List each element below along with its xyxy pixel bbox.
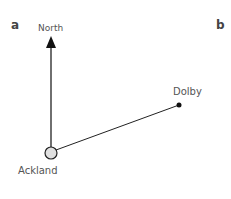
dolby-label: Dolby [173,86,202,97]
north-arrow-icon [46,36,56,147]
dolby-point-icon [177,103,182,108]
bearing-diagram: a b North Dolby Ackland [0,0,231,199]
north-label: North [38,23,63,33]
ackland-label: Ackland [18,165,58,176]
ackland-point-icon [45,147,57,159]
bearing-line [56,105,179,150]
panel-label-a: a [11,18,19,32]
panel-label-b: b [216,18,225,32]
